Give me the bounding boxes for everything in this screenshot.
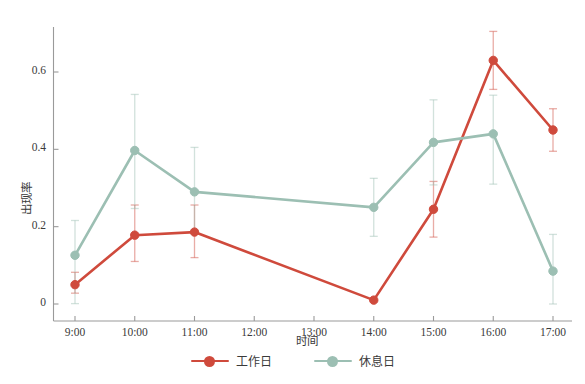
error-bars-1: [71, 31, 557, 293]
series-1: [71, 56, 557, 304]
y-tick-label: 0.2: [8, 219, 46, 231]
y-tick-label: 0: [8, 296, 46, 308]
y-tick-label: 0.4: [8, 141, 46, 153]
series-2: [71, 130, 557, 276]
y-axis-ticks: [54, 72, 59, 304]
legend-marker-icon: [191, 355, 229, 367]
x-tick-label: 12:00: [224, 326, 284, 338]
legend-label: 工作日: [236, 352, 272, 369]
legend-item-2[interactable]: 休息日: [314, 352, 395, 369]
x-tick-label: 13:00: [284, 326, 344, 338]
chart-container: 出现率 时间 工作日休息日 00.20.40.69:0010:0011:0012…: [0, 0, 585, 384]
legend-label: 休息日: [359, 352, 395, 369]
legend-item-1[interactable]: 工作日: [191, 352, 272, 369]
x-axis-ticks: [75, 316, 553, 321]
y-tick-label: 0.6: [8, 64, 46, 76]
chart-legend: 工作日休息日: [0, 352, 585, 369]
x-tick-label: 17:00: [523, 326, 583, 338]
x-tick-label: 10:00: [105, 326, 165, 338]
error-bars-2: [71, 94, 557, 304]
x-tick-label: 15:00: [404, 326, 464, 338]
x-tick-label: 11:00: [165, 326, 225, 338]
legend-marker-icon: [314, 355, 352, 367]
x-tick-label: 14:00: [344, 326, 404, 338]
x-tick-label: 9:00: [45, 326, 105, 338]
y-axis-title: 出现率: [18, 182, 34, 215]
x-tick-label: 16:00: [463, 326, 523, 338]
